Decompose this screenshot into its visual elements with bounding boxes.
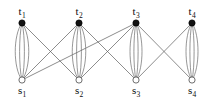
graph-node-s3[interactable] [133,77,139,83]
parallel-edge [186,23,192,80]
node-label-subscript: 1 [23,90,27,99]
parallel-edge [134,23,136,80]
node-label-base: s [75,84,79,96]
graph-node-t1[interactable] [19,20,25,26]
parallel-edge [72,23,79,80]
node-label-s3: s3 [132,85,140,96]
graph-node-t4[interactable] [189,20,195,26]
node-layer [19,20,195,83]
parallel-edge [192,23,194,80]
node-label-subscript: 3 [136,11,140,20]
node-label-base: s [132,84,136,96]
node-label-base: s [18,84,22,96]
node-label-s2: s2 [75,85,83,96]
parallel-edge [15,23,22,80]
node-label-t4: t4 [189,6,196,17]
parallel-edge [136,23,138,80]
cross-edge [22,23,136,80]
node-label-t2: t2 [76,6,83,17]
graph-node-s4[interactable] [189,77,195,83]
graph-node-t2[interactable] [76,20,82,26]
graph-node-t3[interactable] [133,20,139,26]
node-label-subscript: 3 [137,90,141,99]
graph-canvas [0,0,206,101]
node-label-t3: t3 [133,6,140,17]
parallel-edge [20,23,22,80]
parallel-edge [190,23,192,80]
node-label-s4: s4 [188,85,196,96]
node-label-subscript: 1 [22,11,26,20]
node-label-base: s [188,84,192,96]
node-label-s1: s1 [18,85,26,96]
parallel-edge [79,23,86,80]
graph-figure: t1t2t3t4s1s2s3s4 [0,0,206,101]
node-label-t1: t1 [19,6,26,17]
node-label-subscript: 2 [80,90,84,99]
graph-node-s1[interactable] [19,77,25,83]
parallel-edge [22,23,24,80]
parallel-edge [22,23,29,80]
multi-edge-layer [15,23,198,80]
node-label-subscript: 4 [193,90,197,99]
parallel-edge [130,23,136,80]
node-label-subscript: 4 [192,11,196,20]
cross-edge-layer [22,23,192,80]
parallel-edge [192,23,198,80]
node-label-subscript: 2 [79,11,83,20]
graph-node-s2[interactable] [76,77,82,83]
parallel-edge [136,23,142,80]
